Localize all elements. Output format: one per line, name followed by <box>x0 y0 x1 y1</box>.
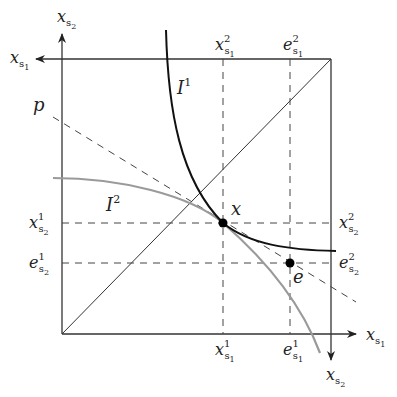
agent1-horizontal-axis-label: xs1 <box>366 325 385 349</box>
tick-x-s2-1: x1s2 <box>29 211 49 237</box>
price-line-label: p <box>33 94 45 115</box>
tick-e-s2-2: e2s2 <box>339 251 359 277</box>
box-diagonal <box>62 59 331 334</box>
agent2-horizontal-axis-label: xs1 <box>10 48 29 72</box>
tick-e-s1-1: e1s1 <box>283 338 303 364</box>
allocation-point-x-label: x <box>231 198 241 219</box>
indifference-curve-1-label: I1 <box>176 76 191 98</box>
indifference-curve-2 <box>53 178 320 353</box>
agent1-vertical-axis-label: xs2 <box>57 7 76 31</box>
allocation-point-x <box>219 219 228 228</box>
endowment-point-e-label: e <box>293 266 304 287</box>
agent2-vertical-axis-label: xs2 <box>326 365 345 389</box>
tick-x-s2-2: x2s2 <box>339 211 359 237</box>
tick-e-s2-1: e1s2 <box>29 251 49 277</box>
tick-e-s1-2: e2s1 <box>283 33 303 59</box>
tick-x-s1-1: x1s1 <box>215 338 235 364</box>
edgeworth-box-diagram: xs2 xs1 xs1 xs2 I1 I2 p x e x2s1 e2s1 x1… <box>0 0 397 397</box>
indifference-curve-2-label: I2 <box>105 193 120 215</box>
tick-x-s1-2: x2s1 <box>215 33 235 59</box>
guide-lines <box>53 59 356 334</box>
